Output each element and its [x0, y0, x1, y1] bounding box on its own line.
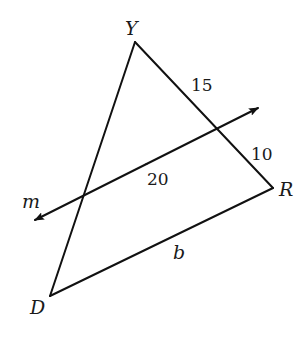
measure-15: 15: [191, 75, 213, 95]
line-label-m: m: [22, 190, 40, 212]
vertex-label-D: D: [29, 296, 45, 318]
triangle-diagram: Y R D m 15 10 20 b: [0, 0, 306, 338]
side-YR: [135, 42, 273, 188]
side-DR: [50, 188, 273, 296]
side-YD: [50, 42, 135, 296]
measure-b: b: [173, 241, 185, 263]
vertex-label-Y: Y: [125, 17, 140, 39]
measure-20: 20: [147, 169, 169, 189]
measure-10: 10: [251, 144, 273, 164]
vertex-label-R: R: [278, 178, 293, 200]
